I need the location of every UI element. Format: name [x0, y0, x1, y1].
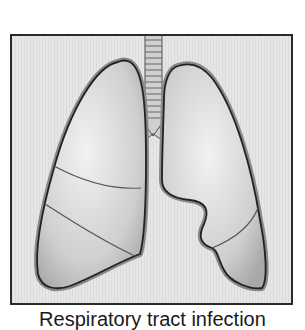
diagram-frame — [10, 34, 293, 305]
lungs-illustration — [10, 34, 293, 305]
figure-caption: Respiratory tract infection — [0, 308, 305, 330]
